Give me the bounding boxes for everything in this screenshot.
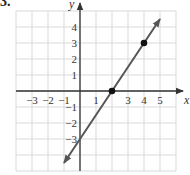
data-point [141, 40, 148, 47]
y-tick-label: 2 [72, 53, 78, 65]
y-tick-label: 4 [72, 21, 78, 33]
y-tick-label: −2 [65, 117, 77, 129]
x-axis-label: x [183, 93, 190, 107]
x-tick-label: 3 [125, 94, 131, 106]
y-tick-label: −3 [65, 133, 77, 145]
y-tick-label: 1 [72, 69, 78, 81]
coordinate-plane: xy−3−2−113454321−1−2−3 [0, 0, 190, 175]
x-tick-label: 5 [157, 94, 163, 106]
y-tick-label: −1 [65, 101, 77, 113]
y-axis-label: y [68, 0, 75, 11]
data-point [109, 88, 116, 95]
x-tick-label: −2 [42, 94, 54, 106]
line-series-upper [112, 19, 160, 91]
x-tick-label: −3 [26, 94, 38, 106]
x-tick-label: 4 [141, 94, 147, 106]
x-tick-label: 1 [93, 94, 99, 106]
y-tick-label: 3 [72, 37, 78, 49]
